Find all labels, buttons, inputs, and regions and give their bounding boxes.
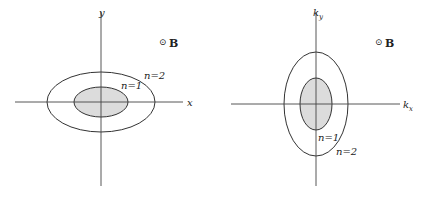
ky-subscript: y xyxy=(319,13,323,21)
kx-subscript: x xyxy=(409,105,413,113)
left-field-label: B xyxy=(169,38,178,49)
right-field-out-of-page-icon: ⊙ xyxy=(375,38,383,47)
left-field-out-of-page-icon: ⊙ xyxy=(159,38,167,47)
right-outer-label: n=2 xyxy=(336,147,357,157)
left-panel xyxy=(15,12,183,186)
left-inner-label: n=1 xyxy=(121,81,142,91)
left-x-axis-label: x xyxy=(187,98,193,108)
right-inner-label: n=1 xyxy=(318,133,339,143)
diagram-canvas xyxy=(0,0,423,197)
right-field-label: B xyxy=(385,38,394,49)
right-ky-axis-label: ky xyxy=(313,8,323,21)
left-outer-label: n=2 xyxy=(144,71,165,81)
right-kx-axis-label: kx xyxy=(403,100,413,113)
left-y-axis-label: y xyxy=(99,8,105,18)
